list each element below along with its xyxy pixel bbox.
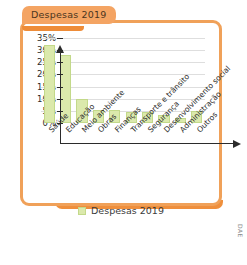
- bar: [76, 99, 87, 123]
- y-axis-tick: [57, 123, 63, 124]
- y-axis-tick: [57, 50, 63, 51]
- bar: [191, 111, 202, 123]
- y-axis-arrow-icon: [56, 45, 64, 53]
- bar: [60, 55, 71, 123]
- bar: [126, 112, 137, 123]
- y-axis-tick: [57, 38, 63, 39]
- bar: [109, 110, 120, 123]
- title-tab-shadow: [22, 26, 84, 31]
- y-axis-tick: [57, 87, 63, 88]
- x-axis-line: [60, 143, 234, 144]
- gridline: [41, 50, 205, 51]
- bar: [93, 110, 104, 123]
- chart-title: Despesas 2019: [22, 6, 116, 24]
- legend-swatch-despesas: [78, 207, 86, 215]
- y-axis-tick: [57, 99, 63, 100]
- x-axis-arrow-icon: [233, 140, 241, 148]
- plot-area: 35%30%25%20%15%10%5%0% Despesas 2019: [20, 20, 222, 206]
- y-axis-tick: [57, 74, 63, 75]
- chart-legend: Despesas 2019: [20, 205, 222, 216]
- legend-label-despesas: Despesas 2019: [91, 205, 164, 216]
- credit-text: DAE: [237, 224, 244, 238]
- bar: [142, 112, 153, 123]
- bar: [158, 115, 169, 124]
- y-axis-tick: [57, 62, 63, 63]
- y-axis-tick: [57, 111, 63, 112]
- bar: [44, 45, 55, 123]
- plot-canvas: [41, 38, 205, 123]
- bar: [175, 118, 186, 123]
- y-axis-line: [60, 51, 61, 144]
- gridline: [41, 38, 205, 39]
